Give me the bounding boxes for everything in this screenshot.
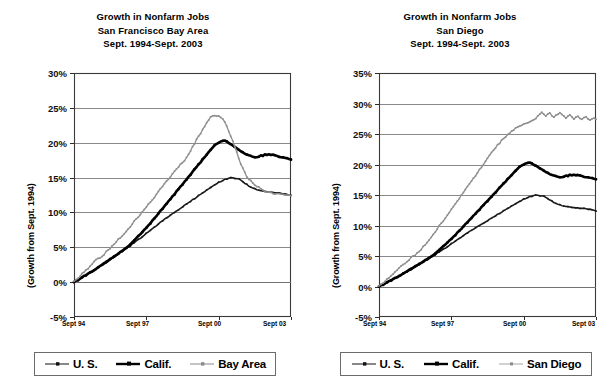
- series-marker: [210, 116, 212, 118]
- series-marker: [103, 254, 105, 256]
- series-marker: [535, 194, 537, 196]
- series-marker: [394, 277, 396, 279]
- series-marker: [254, 188, 256, 190]
- legend-item-region[interactable]: Bay Area: [189, 358, 266, 370]
- series-marker: [511, 174, 513, 176]
- legend-item-calif[interactable]: Calif.: [423, 358, 479, 370]
- series-marker: [495, 147, 497, 149]
- series-marker: [180, 163, 182, 165]
- series-marker: [169, 198, 171, 200]
- series-marker: [248, 179, 250, 181]
- series-marker: [539, 167, 541, 169]
- series-marker: [196, 138, 198, 140]
- series-marker: [138, 239, 140, 241]
- series-marker: [541, 111, 543, 113]
- series-marker: [553, 117, 555, 119]
- series-marker: [246, 153, 248, 155]
- series-marker: [197, 163, 199, 165]
- series-marker: [93, 261, 95, 263]
- series-marker: [91, 263, 93, 265]
- series-marker: [220, 117, 222, 119]
- series-marker: [539, 195, 541, 197]
- series-marker: [282, 156, 284, 158]
- legend-item-region[interactable]: San Diego: [498, 358, 581, 370]
- legend-item-us[interactable]: U. S.: [44, 358, 98, 370]
- series-marker: [274, 193, 276, 195]
- series-marker: [483, 164, 485, 166]
- series-marker: [465, 189, 467, 191]
- series-marker: [145, 227, 147, 229]
- series-marker: [228, 131, 230, 133]
- series-marker: [575, 116, 577, 118]
- series-marker: [154, 197, 156, 199]
- series-marker: [422, 261, 424, 263]
- series-marker: [490, 196, 492, 198]
- series-marker: [262, 189, 264, 191]
- series-marker: [238, 158, 240, 160]
- series-marker: [162, 186, 164, 188]
- series-marker: [463, 192, 465, 194]
- series-marker: [587, 209, 589, 211]
- series-marker: [140, 214, 142, 216]
- series-marker: [453, 206, 455, 208]
- series-marker: [451, 243, 453, 245]
- series-marker: [222, 140, 224, 142]
- series-marker: [185, 179, 187, 181]
- series-marker: [493, 149, 495, 151]
- series-marker: [244, 171, 246, 173]
- series-marker: [571, 116, 573, 118]
- series-marker: [418, 263, 420, 265]
- series-marker: [563, 115, 565, 117]
- series-marker: [531, 196, 533, 198]
- series-marker: [230, 177, 232, 179]
- series-marker: [547, 113, 549, 115]
- series-marker: [404, 263, 406, 265]
- series-marker: [583, 117, 585, 119]
- series-marker: [113, 255, 115, 257]
- series-marker: [85, 274, 87, 276]
- series-marker: [571, 207, 573, 209]
- series-marker: [587, 176, 589, 178]
- series-marker: [462, 225, 464, 227]
- chart-title-line-2: San Francisco Bay Area: [0, 24, 306, 38]
- series-marker: [565, 117, 567, 119]
- legend-item-us[interactable]: U. S.: [351, 358, 405, 370]
- series-marker: [137, 235, 139, 237]
- series-marker: [121, 250, 123, 252]
- series-marker: [392, 273, 394, 275]
- series-marker: [240, 163, 242, 165]
- series-marker: [193, 168, 195, 170]
- series-line-san-diego: [379, 112, 596, 286]
- series-marker: [119, 237, 121, 239]
- series-marker: [450, 238, 452, 240]
- series-marker: [589, 119, 591, 121]
- series-marker: [101, 256, 103, 258]
- series-marker: [266, 191, 268, 193]
- series-marker: [467, 232, 469, 234]
- series-marker: [486, 200, 488, 202]
- series-marker: [254, 156, 256, 158]
- series-marker: [226, 140, 228, 142]
- series-marker: [414, 265, 416, 267]
- series-marker: [491, 217, 493, 219]
- series-marker: [242, 167, 244, 169]
- series-marker: [547, 172, 549, 174]
- legend-item-calif[interactable]: Calif.: [115, 358, 171, 370]
- series-marker: [531, 120, 533, 122]
- series-marker: [535, 118, 537, 120]
- series-marker: [567, 175, 569, 177]
- series-marker: [577, 115, 579, 117]
- chart-title-san-diego: Growth in Nonfarm Jobs San Diego Sept. 1…: [307, 10, 613, 51]
- series-marker: [595, 119, 597, 121]
- series-marker: [121, 235, 123, 237]
- series-marker: [396, 269, 398, 271]
- series-marker: [459, 238, 461, 240]
- series-marker: [479, 169, 481, 171]
- series-marker: [186, 157, 188, 159]
- series-marker: [173, 193, 175, 195]
- y-tick-label: 0%: [53, 277, 67, 288]
- series-marker: [447, 246, 449, 248]
- series-marker: [178, 209, 180, 211]
- series-marker: [266, 154, 268, 156]
- series-marker: [230, 143, 232, 145]
